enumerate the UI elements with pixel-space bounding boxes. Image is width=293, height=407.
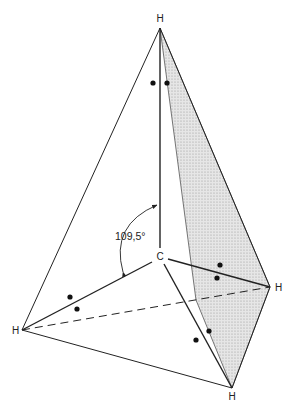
atom-label-top-h: H xyxy=(156,13,163,24)
atom-label-carbon: C xyxy=(156,251,163,262)
bond-angle-label: 109,5° xyxy=(115,230,145,242)
atom-label-left-h: H xyxy=(12,325,19,336)
shaded-face xyxy=(160,28,270,388)
atom-label-bottom-h: H xyxy=(228,391,235,402)
tetrahedron-diagram: H H H H C 109,5° xyxy=(0,0,293,407)
atom-label-right-h: H xyxy=(275,282,282,293)
